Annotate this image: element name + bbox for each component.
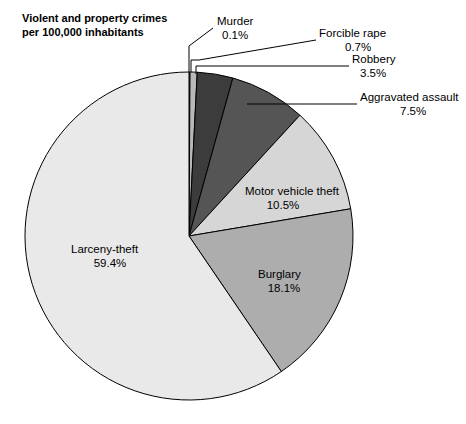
leader-line-robbery	[196, 66, 349, 74]
callout-label-forcible-rape: Forcible rape	[319, 27, 386, 39]
callout-value-aggravated-assault: 7.5%	[400, 105, 426, 117]
callout-label-murder: Murder	[217, 15, 254, 27]
slice-label-larceny-theft: Larceny-theft	[71, 243, 139, 255]
callout-value-murder: 0.1%	[222, 29, 248, 41]
callout-label-robbery: Robbery	[352, 53, 396, 65]
slice-label-motor-vehicle-theft: Motor vehicle theft	[245, 185, 340, 197]
slice-value-burglary: 18.1%	[268, 282, 301, 294]
slice-label-burglary: Burglary	[258, 268, 301, 280]
pie-chart-figure: Violent and property crimes per 100,000 …	[0, 0, 466, 424]
chart-title-line-1: Violent and property crimes	[22, 12, 167, 24]
slice-value-larceny-theft: 59.4%	[94, 257, 127, 269]
slice-value-motor-vehicle-theft: 10.5%	[267, 199, 300, 211]
callout-value-forcible-rape: 0.7%	[345, 41, 371, 53]
leader-line-forcible-rape	[191, 40, 316, 72]
callout-value-robbery: 3.5%	[360, 67, 386, 79]
chart-title-line-2: per 100,000 inhabitants	[22, 26, 144, 38]
leader-line-murder	[189, 28, 213, 72]
pie-chart-svg: Violent and property crimes per 100,000 …	[0, 0, 466, 424]
pie-slices-group	[25, 72, 353, 400]
callout-label-aggravated-assault: Aggravated assault	[360, 91, 459, 103]
